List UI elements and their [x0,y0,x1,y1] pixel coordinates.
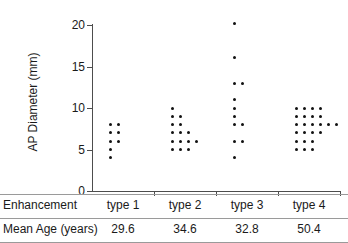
data-point [233,82,236,85]
data-point [303,107,306,110]
data-point [233,22,236,25]
data-point [311,115,314,118]
data-point [311,123,314,126]
data-point [171,131,174,134]
data-point [319,115,322,118]
y-tick-label: 5 [78,144,85,156]
cell-enhancement-type4: type 4 [278,198,340,212]
data-point [311,140,314,143]
data-point [179,148,182,151]
data-point [241,140,244,143]
data-point [233,140,236,143]
data-point [295,115,298,118]
y-tick-label: 20 [72,19,85,31]
data-point [187,148,190,151]
y-tick-label: 10 [72,102,85,114]
data-point [303,140,306,143]
data-point [303,148,306,151]
data-point [311,107,314,110]
dot-plot-figure: AP Diameter (mm) 05101520 Enhancement ty… [0,0,348,243]
data-point [187,131,190,134]
data-point [233,123,236,126]
cell-mean-age-type2: 34.6 [154,222,216,236]
data-point [303,131,306,134]
data-point [179,131,182,134]
table-row: Mean Age (years) 29.6 34.6 32.8 50.4 [0,218,348,242]
data-point [117,131,120,134]
data-point [319,107,322,110]
data-point [319,123,322,126]
table-row: Enhancement type 1 type 2 type 3 type 4 [0,194,348,218]
data-point [171,140,174,143]
data-point [303,115,306,118]
y-axis-line [92,24,93,192]
data-point [233,156,236,159]
data-point [233,56,236,59]
data-point [327,123,330,126]
cell-mean-age-type3: 32.8 [216,222,278,236]
data-point [171,115,174,118]
plot-area: AP Diameter (mm) 05101520 [0,0,348,196]
data-point [109,148,112,151]
y-tick-mark [87,108,92,109]
data-point [195,140,198,143]
data-point [109,140,112,143]
data-point [171,107,174,110]
data-point [233,107,236,110]
data-point [109,131,112,134]
data-point [241,123,244,126]
data-point [241,82,244,85]
data-point [295,123,298,126]
data-point [179,140,182,143]
data-point [335,123,338,126]
y-tick-mark [87,67,92,68]
cell-enhancement-type2: type 2 [154,198,216,212]
data-point [109,156,112,159]
data-point [233,115,236,118]
y-tick-mark [87,25,92,26]
cell-mean-age-type1: 29.6 [92,222,154,236]
cell-enhancement-type3: type 3 [216,198,278,212]
data-point [109,123,112,126]
y-tick-mark [87,191,92,192]
data-point [179,115,182,118]
data-point [117,123,120,126]
data-point [171,148,174,151]
cell-mean-age-type4: 50.4 [278,222,340,236]
row-header-mean-age: Mean Age (years) [3,222,98,236]
cell-enhancement-type1: type 1 [92,198,154,212]
data-point [295,107,298,110]
data-point [187,140,190,143]
summary-table: Enhancement type 1 type 2 type 3 type 4 … [0,194,348,243]
y-tick-label: 15 [72,61,85,73]
row-header-enhancement: Enhancement [3,198,77,212]
data-point [295,148,298,151]
data-point [117,140,120,143]
data-point [303,123,306,126]
data-point [319,131,322,134]
data-point [295,140,298,143]
data-point [171,123,174,126]
data-point [311,131,314,134]
data-point [311,148,314,151]
data-point [295,131,298,134]
data-point [233,98,236,101]
y-tick-mark [87,150,92,151]
y-axis-title: AP Diameter (mm) [26,22,40,182]
data-point [179,123,182,126]
